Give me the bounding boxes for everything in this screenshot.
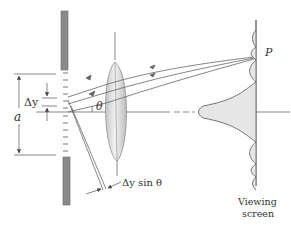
screen-caption-line2: screen bbox=[242, 208, 274, 219]
screen-caption-line1: Viewing bbox=[237, 196, 277, 207]
element-width-dimension bbox=[42, 83, 57, 121]
slit-width-label: a bbox=[14, 110, 21, 124]
element-width-label: Δy bbox=[24, 96, 39, 109]
barrier-bottom bbox=[63, 157, 70, 205]
converging-lens bbox=[105, 32, 126, 176]
intensity-pattern bbox=[199, 30, 257, 190]
point-p-label: P bbox=[264, 46, 273, 59]
angle-label: θ bbox=[96, 100, 103, 113]
slit-barrier bbox=[61, 11, 70, 205]
path-difference-label: Δy sin θ bbox=[122, 177, 162, 188]
barrier-top bbox=[61, 11, 68, 70]
diffraction-diagram: a Δy θ Δy sin θ bbox=[0, 0, 291, 225]
